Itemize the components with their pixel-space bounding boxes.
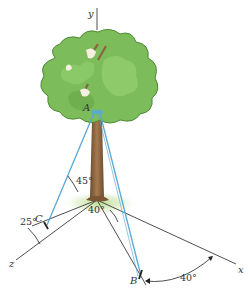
angle-25-label: 25°	[20, 217, 37, 227]
arc-40-bottom	[146, 257, 212, 282]
y-axis-label: y	[88, 9, 94, 19]
angle-45-label: 45°	[76, 176, 93, 186]
diagram-canvas	[0, 0, 252, 297]
z-axis	[16, 200, 97, 260]
point-B-label: B	[130, 276, 137, 286]
tree-trunk	[90, 120, 104, 201]
x-axis	[97, 200, 236, 264]
tree-foliage	[41, 29, 158, 123]
z-axis-label: z	[9, 259, 14, 269]
angle-40-bottom-label: 40°	[180, 273, 197, 283]
angle-40-base-label: 40°	[88, 205, 105, 215]
x-axis-label: x	[238, 265, 244, 275]
arrowhead	[145, 278, 150, 284]
point-A-label: A	[83, 103, 90, 113]
tree-guy-wire-diagram: y x z A B C 45° 40° 25° 40°	[0, 0, 252, 297]
arc-25	[28, 228, 40, 244]
